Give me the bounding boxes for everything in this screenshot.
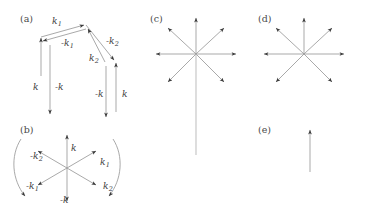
panel-a-arrows (41, 25, 116, 117)
label-base: k (100, 157, 105, 167)
label-base: k (52, 16, 57, 26)
label-minus-k1-lower-left: -k1 (26, 181, 39, 193)
label-subscript: 2 (95, 57, 99, 65)
label-subscript: 2 (109, 185, 113, 193)
label-base: -k (26, 181, 35, 191)
label-minus-k2-outer: -k2 (106, 36, 119, 48)
label-base: -k (60, 195, 69, 205)
label-minus-k-right-inner: -k (95, 89, 104, 99)
panel-label-c: (c) (150, 13, 163, 24)
label-base: k (122, 89, 127, 99)
panel-d-star (264, 18, 344, 82)
arc-left (14, 139, 25, 196)
ray-c-se (196, 54, 224, 82)
ray-c-sw (168, 54, 196, 82)
arrow-b-k2 (67, 168, 96, 185)
label-subscript: 2 (39, 155, 43, 163)
panel-label-d: (d) (258, 13, 272, 24)
ray-c-nw (168, 28, 196, 54)
label-subscript: 2 (115, 40, 119, 48)
label-k1-upper-right: k1 (100, 157, 110, 169)
label-minus-k-down: -k (60, 195, 69, 205)
label-base: k (71, 143, 76, 153)
label-subscript: 1 (58, 20, 62, 28)
label-base: k (89, 53, 94, 63)
label-minus-k-left-inner: -k (55, 82, 64, 92)
arrow-b-minus-k1 (38, 168, 67, 185)
ray-d-ne (304, 28, 332, 54)
label-base: -k (106, 36, 115, 46)
label-k-right-outer: k (122, 89, 127, 99)
label-subscript: 1 (106, 161, 110, 169)
figure-canvas: (a) (b) (c) (d) (e) k1-k1k2-k2k-k-kkkk1k… (0, 0, 371, 210)
ray-d-sw (276, 54, 304, 82)
ray-c-ne (196, 28, 224, 54)
label-base: -k (55, 82, 64, 92)
label-minus-k1-inner: -k1 (61, 38, 74, 50)
arrow-b-k1 (67, 151, 96, 168)
panel-label-a: (a) (20, 13, 33, 24)
label-k1-outer: k1 (52, 16, 62, 28)
label-subscript: 1 (35, 185, 39, 193)
label-minus-k2-upper-left: -k2 (30, 151, 43, 163)
label-k-left-outer: k (33, 82, 38, 92)
label-base: k (103, 181, 108, 191)
label-k-up: k (71, 143, 76, 153)
label-base: k (33, 82, 38, 92)
label-k2-lower-right: k2 (103, 181, 113, 193)
vector-graphics-layer (0, 0, 371, 210)
panel-label-b: (b) (20, 124, 34, 135)
ray-d-nw (276, 28, 304, 54)
label-base: -k (95, 89, 104, 99)
label-k2-inner: k2 (89, 53, 99, 65)
label-base: -k (30, 151, 39, 161)
panel-b-star (38, 135, 96, 201)
label-subscript: 1 (70, 42, 74, 50)
panel-label-e: (e) (258, 124, 271, 135)
ray-d-se (304, 54, 332, 82)
label-base: -k (61, 38, 70, 48)
